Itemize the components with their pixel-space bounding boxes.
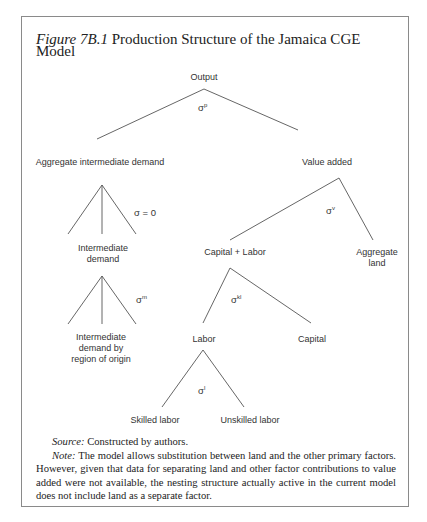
node-line: region of origin	[71, 354, 131, 365]
sigma-sup: v	[332, 205, 335, 211]
node-line: Intermediate	[78, 243, 128, 254]
sigma-capital-labor: σkl	[231, 294, 241, 305]
source-label: Source:	[52, 436, 85, 447]
node-line: land	[356, 258, 398, 269]
edge-output-valueadded	[204, 89, 298, 130]
node-line: demand	[78, 254, 128, 265]
edge-aggint-right	[102, 185, 136, 234]
sigma-intermediate: σ = 0	[134, 207, 156, 218]
sigma-output: σp	[198, 102, 207, 113]
sigma-value-added: σv	[326, 205, 335, 216]
node-value-added: Value added	[302, 157, 352, 168]
edge-va-land	[339, 178, 373, 240]
sigma-region: σm	[136, 294, 147, 305]
edge-va-capitallabor	[230, 178, 339, 240]
node-line: demand by	[71, 343, 131, 354]
edge-kl-labor	[203, 268, 230, 323]
source-text: Constructed by authors.	[85, 436, 189, 447]
edge-labor-unskilled	[203, 350, 244, 407]
note-text: The model allows substitution between la…	[36, 450, 396, 502]
node-capital: Capital	[298, 334, 326, 345]
sigma-sup: l	[204, 385, 205, 391]
node-aggregate-intermediate-demand: Aggregate intermediate demand	[36, 157, 165, 168]
node-skilled-labor: Skilled labor	[130, 415, 179, 426]
note-paragraph: Note: The model allows substitution betw…	[36, 449, 396, 503]
node-line: Intermediate	[71, 332, 131, 343]
edge-int-left	[68, 276, 102, 324]
sigma-sup: m	[142, 294, 147, 300]
node-unskilled-labor: Unskilled labor	[220, 415, 279, 426]
sigma-labor: σl	[198, 385, 205, 396]
source-note: Source: Constructed by authors.	[36, 435, 396, 449]
node-intermediate-demand: Intermediate demand	[78, 243, 128, 265]
node-aggregate-land: Aggregate land	[356, 247, 398, 269]
node-labor: Labor	[192, 334, 215, 345]
node-capital-labor: Capital + Labor	[204, 247, 265, 258]
edge-aggint-left	[68, 185, 102, 234]
sigma-sup: kl	[237, 294, 241, 300]
node-line: Aggregate	[356, 247, 398, 258]
node-intermediate-by-region: Intermediate demand by region of origin	[71, 332, 131, 365]
sigma-sup: p	[204, 102, 207, 108]
note-label: Note:	[52, 450, 76, 461]
figure-notes: Source: Constructed by authors. Note: Th…	[36, 435, 396, 503]
edge-labor-skilled	[162, 350, 203, 407]
edge-output-intermediate	[97, 89, 204, 139]
node-output: Output	[190, 72, 217, 83]
edge-kl-capital	[230, 268, 311, 323]
edge-int-right	[102, 276, 136, 324]
